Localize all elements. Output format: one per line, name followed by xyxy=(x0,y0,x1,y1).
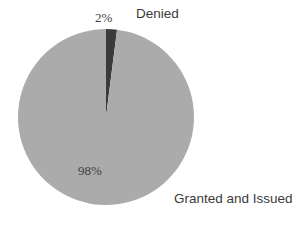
pie-slice-group xyxy=(18,29,194,205)
slice-category-label-denied: Denied xyxy=(136,7,179,21)
slice-value-label-granted-and-issued: 98% xyxy=(78,164,102,177)
slice-value-label-denied: 2% xyxy=(95,11,112,24)
pie-slice-granted-and-issued xyxy=(18,29,194,205)
pie-chart-figure: 2% Denied 98% Granted and Issued xyxy=(0,0,302,225)
slice-category-label-granted-and-issued: Granted and Issued xyxy=(174,192,293,206)
